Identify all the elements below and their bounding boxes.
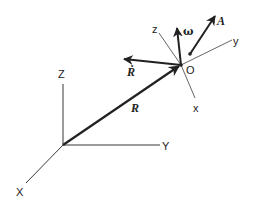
label-O: O [186,64,195,76]
label-A: A [216,14,225,28]
vector-R-dot: Ṙ [124,59,181,79]
label-y: y [233,35,239,47]
axis-y [181,40,232,65]
axis-X [26,145,63,183]
vector-R: R [63,66,179,145]
label-Z: Z [58,68,65,80]
label-omega: ω [183,25,194,38]
label-z: z [152,23,158,35]
label-x: x [193,102,199,114]
label-Y: Y [162,140,170,152]
label-R-dot: Ṙ [126,65,135,79]
diagram-canvas: Z Y X z y x O R Ṙ ω A [0,0,254,203]
vector-omega: ω [177,25,194,65]
vector-A: A [188,14,225,56]
label-R: R [130,101,139,115]
moving-frame: z y x O [152,23,239,114]
label-X: X [16,186,24,198]
